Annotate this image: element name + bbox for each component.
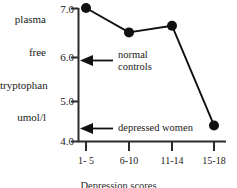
chart-figure: plasma free tryptophan umol/l 7.0 6.0 5.… [0, 0, 237, 188]
annotation-normal-controls: normal controls [118, 49, 152, 72]
annotation-normal-controls-line-1: normal [118, 49, 152, 61]
depressed-women-arrow [80, 123, 113, 134]
x-tick-label-3: 11-14 [150, 156, 194, 166]
data-point [124, 27, 134, 37]
data-point [81, 3, 91, 13]
data-point [167, 21, 177, 31]
x-tick-label-2: 6-10 [107, 156, 151, 166]
x-tick-label-1: 1- 5 [64, 156, 108, 166]
x-tick-label-4: 15-18 [192, 156, 236, 166]
x-axis-title: Depression scores [0, 180, 237, 188]
annotation-normal-controls-line-2: controls [118, 61, 152, 73]
data-point [209, 120, 219, 130]
normal-controls-arrow [80, 55, 113, 66]
annotation-depressed-women: depressed women [118, 122, 193, 134]
